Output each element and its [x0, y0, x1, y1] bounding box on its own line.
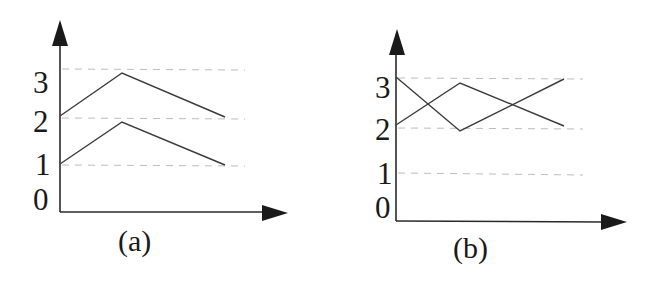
y-tick-label: 2 [33, 104, 49, 139]
x-axis-arrow-icon [601, 214, 627, 230]
y-axis-arrow-icon [52, 20, 68, 46]
x-axis-arrow-icon [262, 205, 288, 221]
panel-b: 3 2 1 0 (b) [375, 29, 627, 265]
panel-caption: (b) [453, 231, 488, 265]
y-tick-label: 2 [375, 112, 391, 147]
y-tick-label: 3 [33, 65, 49, 100]
series-lower [60, 122, 225, 165]
figure: 3 2 1 0 (a) 3 2 1 0 (b) [0, 0, 661, 282]
series-falling-rising [396, 77, 564, 131]
y-tick-label: 0 [33, 182, 49, 217]
y-axis-arrow-icon [389, 29, 405, 55]
panel-a: 3 2 1 0 (a) [33, 20, 288, 258]
panel-caption: (a) [118, 224, 151, 258]
x-axis [396, 221, 604, 222]
gridlines [398, 78, 583, 175]
series-upper [60, 73, 225, 117]
y-tick-label: 1 [35, 147, 51, 182]
series-rising-falling [396, 83, 564, 126]
y-tick-label: 3 [375, 70, 391, 105]
gridlines [62, 69, 245, 166]
y-tick-label: 1 [377, 156, 393, 191]
y-tick-label: 0 [375, 190, 391, 225]
